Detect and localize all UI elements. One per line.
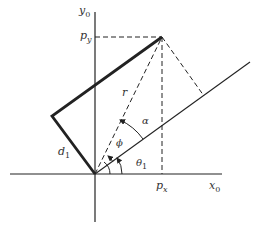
alpha-label: α — [142, 115, 149, 126]
px-label: px — [156, 179, 168, 194]
theta1-arc — [117, 158, 122, 174]
r-label: r — [122, 86, 128, 99]
theta1-label: θ1 — [136, 157, 147, 171]
r-dashed — [95, 37, 162, 174]
theta1-line — [95, 62, 250, 174]
d1-label: d1 — [58, 145, 70, 160]
phi-arc-arrow — [108, 156, 113, 162]
py-label: py — [80, 29, 92, 44]
diagram-canvas: y0 py r α ϕ θ1 d1 px x0 — [0, 0, 261, 229]
phi-label: ϕ — [116, 137, 123, 148]
x-axis-label: x0 — [209, 179, 220, 194]
perp-dashed — [162, 37, 204, 96]
alpha-arc — [120, 120, 143, 139]
y-axis-label: y0 — [78, 4, 90, 19]
